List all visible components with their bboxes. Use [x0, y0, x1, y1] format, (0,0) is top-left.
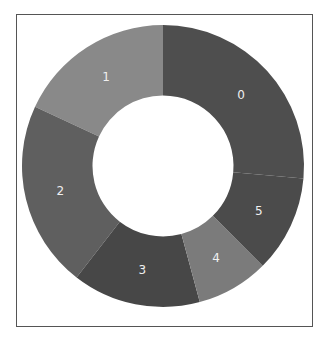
segment-label-3: 3: [138, 263, 146, 277]
donut-segment-0: [163, 25, 304, 178]
segment-label-4: 4: [212, 251, 220, 265]
segment-label-1: 1: [102, 70, 110, 84]
segment-label-5: 5: [255, 204, 263, 218]
segment-label-2: 2: [56, 184, 64, 198]
segment-label-0: 0: [237, 88, 245, 102]
donut-chart: 012345: [0, 0, 331, 343]
